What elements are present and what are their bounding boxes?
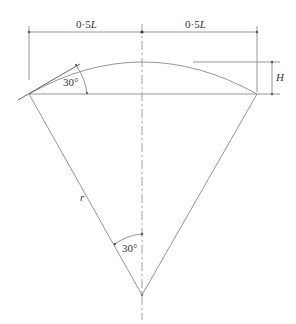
apex-point [141,294,143,296]
half-span-left-label: 0·5L [76,18,97,30]
right-radius-line [142,94,257,295]
central-angle-label: 30° [122,242,137,254]
central-angle-tick-right [141,233,143,235]
arch-geometry-diagram: 0·5L 0·5L H 30° r 30° [0,0,296,324]
dimension-tick-right [256,31,258,33]
half-span-right-label: 0·5L [185,18,206,30]
left-radius-line [29,94,142,295]
tangent-angle-tick-bottom [86,92,88,94]
rise-tick-top [271,61,273,63]
dimension-tick-centre [141,31,144,34]
tangent-angle-label: 30° [63,76,78,88]
radius-label: r [80,191,85,203]
tangent-angle-tick-top [75,64,77,66]
rise-label: H [275,71,285,83]
central-angle-tick-left [114,243,116,245]
dimension-tick-left [28,31,30,33]
rise-tick-bottom [271,93,273,95]
